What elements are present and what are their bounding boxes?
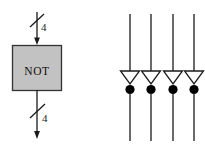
- inverter-2-bubble-icon: [146, 85, 155, 94]
- inverter-1: [121, 14, 140, 141]
- output-bus-width-label: 4: [42, 113, 48, 124]
- inverter-3: [164, 14, 183, 141]
- input-bus-width-label: 4: [41, 22, 47, 33]
- inverter-1-triangle-icon: [121, 71, 140, 84]
- inverter-4-bubble-icon: [189, 85, 198, 94]
- not-block-label: NOT: [12, 66, 62, 78]
- inverter-4-triangle-icon: [185, 71, 204, 84]
- inverter-3-triangle-icon: [164, 71, 183, 84]
- inverter-4: [185, 14, 204, 141]
- output-arrowhead-icon: [34, 131, 40, 139]
- input-arrowhead-icon: [34, 38, 40, 46]
- inverter-3-bubble-icon: [168, 85, 177, 94]
- inverter-1-bubble-icon: [125, 85, 134, 94]
- inverter-2: [142, 14, 161, 141]
- right-inverter-array: [121, 14, 204, 141]
- inverter-2-triangle-icon: [142, 71, 161, 84]
- logic-diagram-figure: NOT 4 4: [0, 0, 205, 149]
